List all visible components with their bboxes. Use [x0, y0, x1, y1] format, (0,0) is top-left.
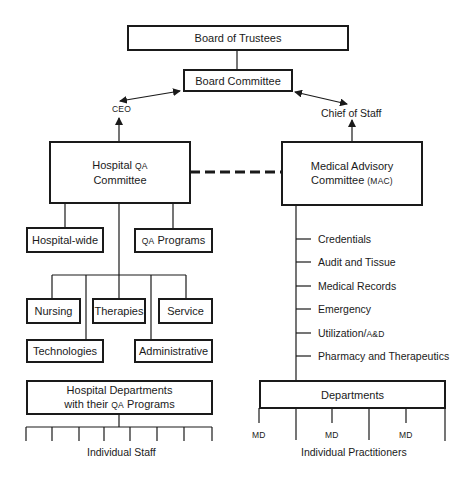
hospital-qa-committee-line2: Committee: [93, 173, 146, 187]
ceo-label: CEO: [112, 103, 131, 115]
subcommittee-medical-records: Medical Records: [318, 280, 396, 292]
mac-line1: Medical Advisory: [311, 159, 394, 173]
hospital-qa-committee-box: Hospital QA Committee: [49, 141, 191, 204]
mac-line2: Committee (MAC): [311, 173, 393, 188]
chief-of-staff-label: Chief of Staff: [321, 107, 382, 119]
individual-staff-label: Individual Staff: [87, 446, 156, 458]
subcommittee-emergency: Emergency: [318, 303, 371, 315]
board-committee-box: Board Committee: [183, 69, 293, 92]
board-of-trustees-box: Board of Trustees: [127, 25, 349, 51]
medical-departments-box: Departments: [259, 380, 446, 409]
medical-advisory-committee-box: Medical Advisory Committee (MAC): [281, 141, 423, 206]
subcommittee-credentials: Credentials: [318, 233, 371, 245]
qa-organization-chart: Board of Trustees Board Committee CEO Ch…: [0, 0, 467, 478]
md-label: MD: [252, 429, 266, 441]
individual-practitioners-label: Individual Practitioners: [301, 446, 407, 458]
md-label: MD: [325, 429, 339, 441]
subcommittee-utilization: Utilization/A&D: [318, 327, 385, 340]
md-label: MD: [399, 429, 413, 441]
service-box: Service: [158, 298, 213, 324]
subcommittee-pharmacy-therapeutics: Pharmacy and Therapeutics: [318, 350, 449, 362]
therapies-box: Therapies: [92, 298, 146, 324]
hospital-departments-box: Hospital Departments with their QA Progr…: [26, 380, 213, 415]
administrative-box: Administrative: [134, 339, 213, 363]
qa-programs-box: QA Programs: [134, 228, 213, 253]
subcommittee-audit-tissue: Audit and Tissue: [318, 256, 396, 268]
board-of-trustees-label: Board of Trustees: [195, 31, 282, 45]
board-committee-label: Board Committee: [195, 74, 281, 88]
hospital-qa-committee-line1: Hospital QA: [92, 158, 147, 173]
technologies-box: Technologies: [26, 339, 104, 363]
nursing-box: Nursing: [26, 298, 81, 324]
hospital-wide-box: Hospital-wide: [26, 227, 104, 253]
